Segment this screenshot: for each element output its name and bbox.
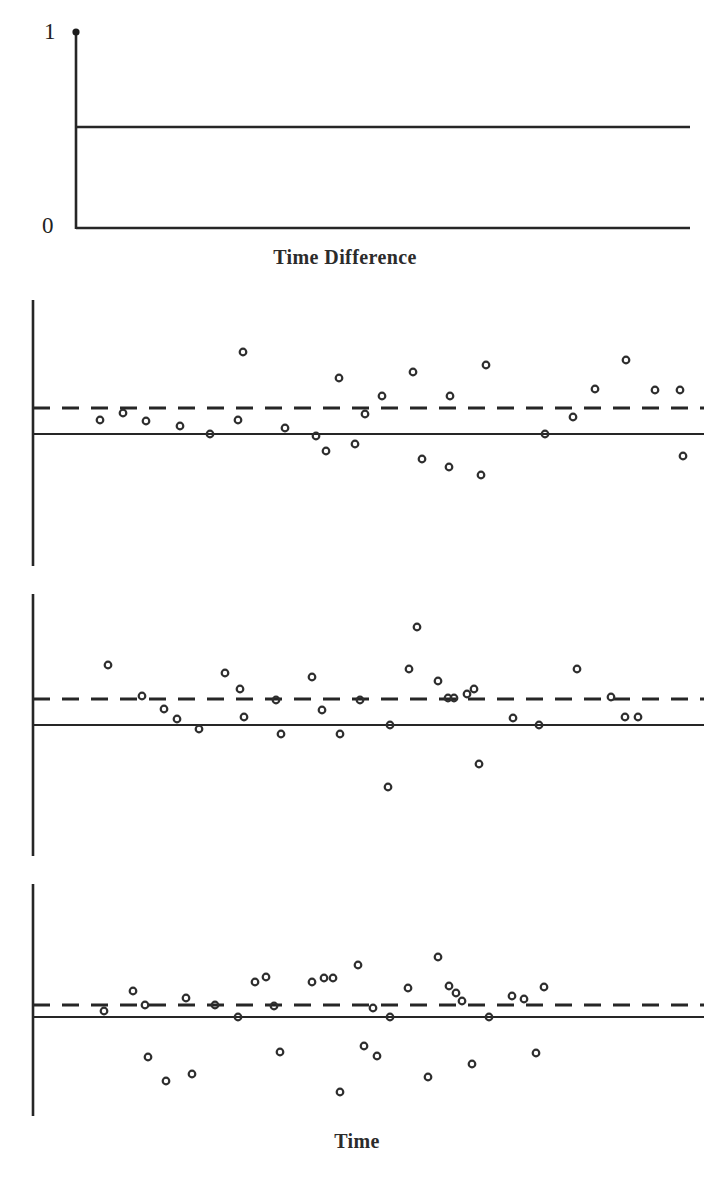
step-function-panel	[72, 28, 690, 229]
panel1-ytick-top-label: 1	[44, 19, 56, 45]
panel4-points	[101, 954, 548, 1096]
panel4-x-axis-label: Time	[0, 1130, 714, 1153]
panel1-ytick-bottom-label: 0	[42, 213, 54, 239]
panel1-x-axis-label: Time Difference	[0, 246, 690, 269]
figure-canvas: 1 0 Time Difference Time	[0, 0, 724, 1188]
residual-panel-1	[33, 300, 704, 566]
panel1-origin-dot	[72, 28, 79, 35]
panel3-points	[105, 624, 642, 791]
panel2-points	[97, 349, 687, 479]
figure-vector-layer	[0, 0, 724, 1188]
residual-panel-3	[33, 884, 704, 1116]
residual-panel-2	[33, 594, 704, 856]
